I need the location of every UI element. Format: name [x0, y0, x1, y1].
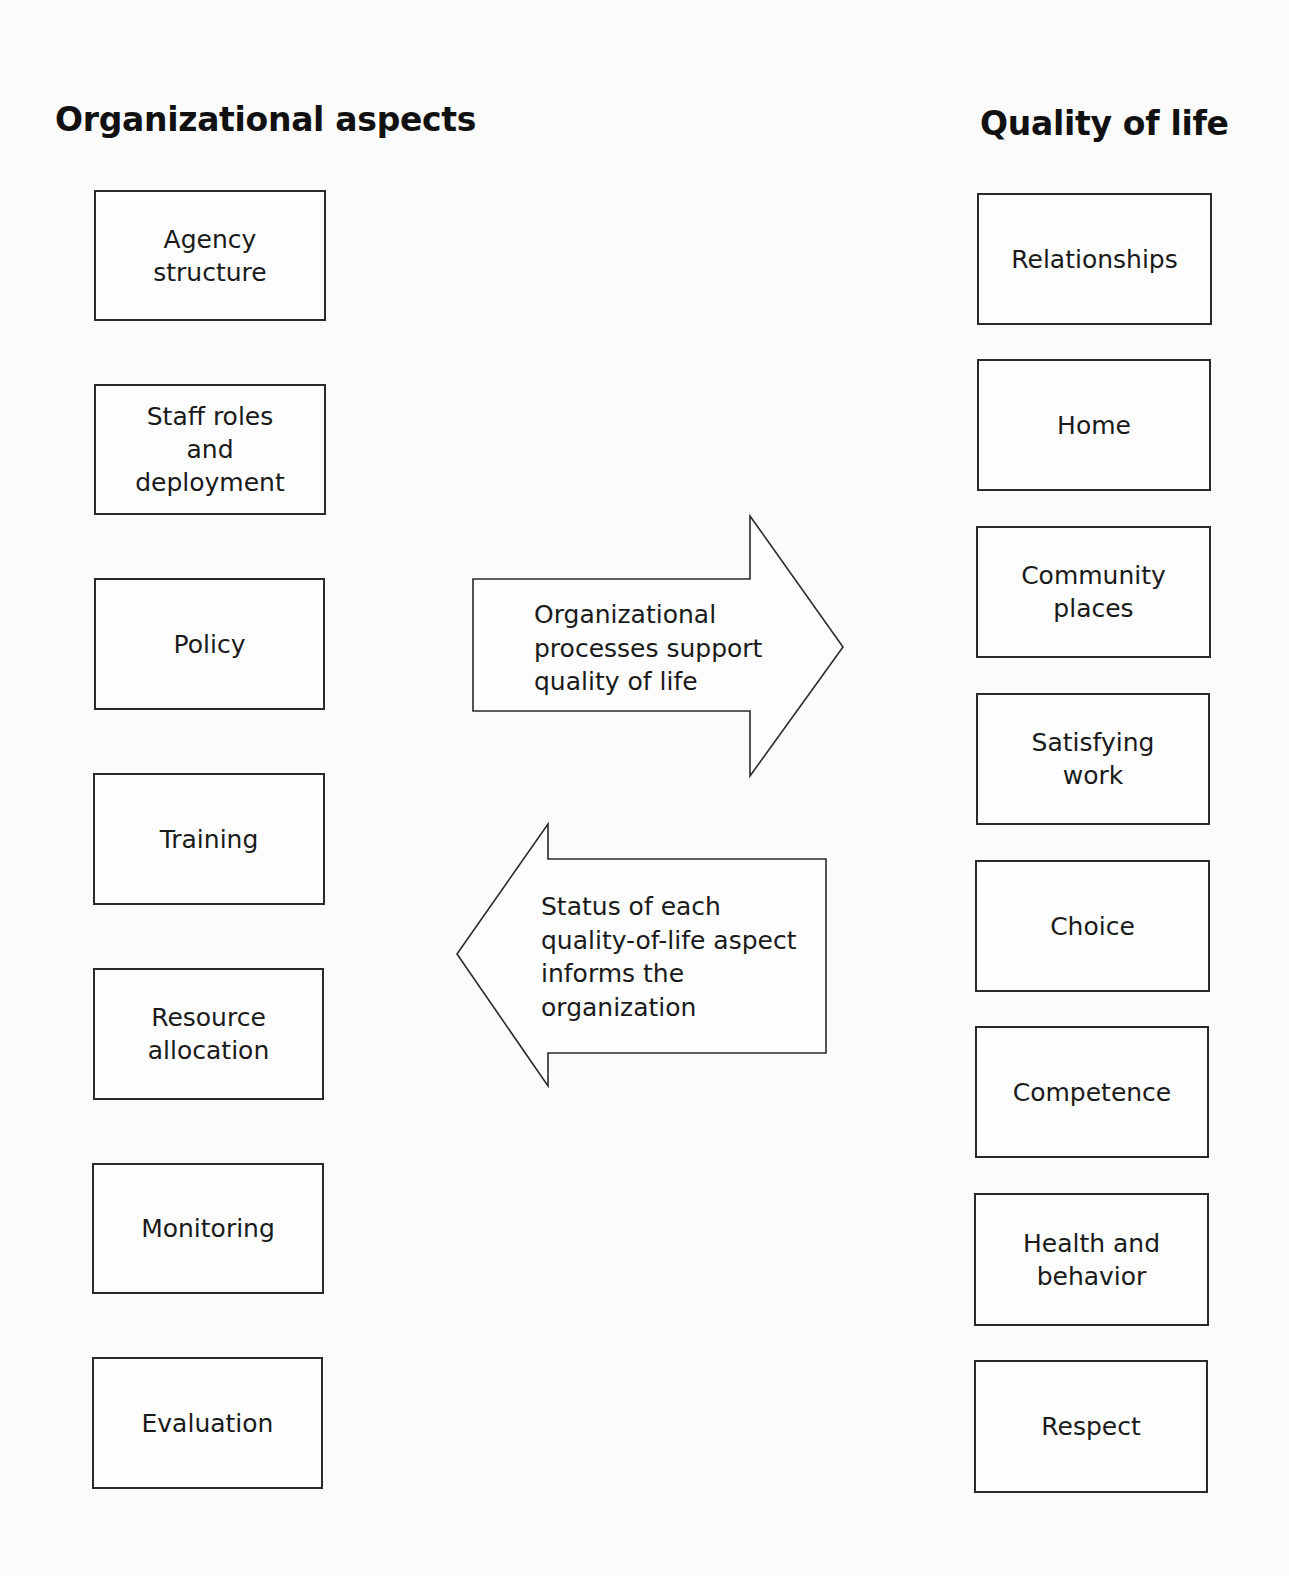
box-resource-allocation: Resource allocation — [93, 968, 324, 1100]
right-column-heading: Quality of life — [980, 104, 1229, 143]
box-competence: Competence — [975, 1026, 1209, 1158]
box-community-places: Community places — [976, 526, 1211, 658]
box-home: Home — [977, 359, 1211, 491]
arrow-right-label: Organizational processes support quality… — [534, 598, 762, 699]
box-satisfying-work: Satisfying work — [976, 693, 1210, 825]
box-training: Training — [93, 773, 325, 905]
box-staff-roles: Staff roles and deployment — [94, 384, 326, 515]
box-monitoring: Monitoring — [92, 1163, 324, 1294]
box-policy: Policy — [94, 578, 325, 710]
box-respect: Respect — [974, 1360, 1208, 1493]
box-agency-structure: Agency structure — [94, 190, 326, 321]
box-choice: Choice — [975, 860, 1210, 992]
box-evaluation: Evaluation — [92, 1357, 323, 1489]
box-health-and-behavior: Health and behavior — [974, 1193, 1209, 1326]
left-column-heading: Organizational aspects — [55, 100, 476, 139]
box-relationships: Relationships — [977, 193, 1212, 325]
arrow-left-label: Status of each quality-of-life aspect in… — [541, 890, 796, 1024]
